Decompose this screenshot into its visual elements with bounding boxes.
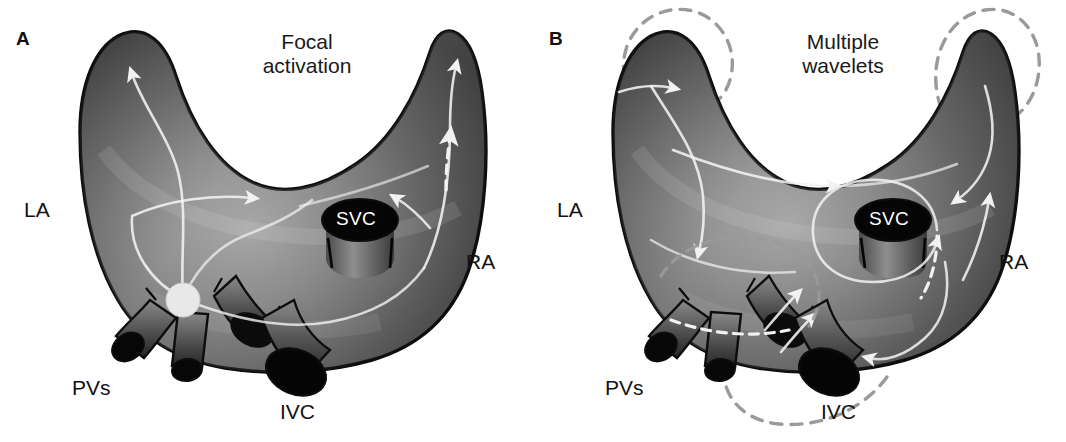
panel-a-label-la: LA [24, 198, 50, 222]
panel-a-label-svc: SVC [336, 208, 376, 230]
panel-b-letter: B [549, 28, 563, 50]
panel-a: A Focal activation LA RA PVs IVC SVC [0, 0, 533, 442]
panel-b-label-pvs: PVs [605, 376, 644, 400]
figure-root: A Focal activation LA RA PVs IVC SVC [0, 0, 1066, 442]
panel-a-label-pvs: PVs [72, 376, 111, 400]
panel-a-label-ivc: IVC [280, 400, 315, 424]
panel-b-label-ra: RA [999, 250, 1028, 274]
panel-a-label-ra: RA [466, 250, 495, 274]
panel-a-letter: A [16, 28, 30, 50]
panel-b-title: Multiple wavelets [755, 30, 931, 78]
panel-b: B Multiple wavelets LA RA PVs IVC SVC [533, 0, 1066, 442]
panel-b-label-svc: SVC [869, 208, 909, 230]
focal-activation-point [166, 283, 200, 317]
panel-b-label-ivc: IVC [821, 400, 856, 424]
panel-b-label-la: LA [557, 198, 583, 222]
panel-a-title: Focal activation [222, 30, 392, 78]
